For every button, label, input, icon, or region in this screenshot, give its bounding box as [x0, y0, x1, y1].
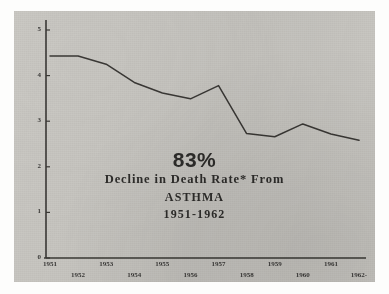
- x-axis-label: 1954: [127, 271, 141, 279]
- x-axis-label: 1955: [155, 260, 169, 268]
- chart-card: 012345 195119521953195419551956195719581…: [14, 11, 375, 282]
- x-axis-label: 1962-: [351, 271, 367, 279]
- x-axis-label: 1953: [99, 260, 113, 268]
- y-axis-label: 0: [29, 253, 41, 261]
- caption-line-3: 1951-1962: [14, 206, 375, 223]
- x-axis-label: 1960: [296, 271, 310, 279]
- data-series-line: [50, 56, 359, 140]
- caption-percent: 83%: [14, 149, 375, 171]
- x-axis-label: 1952: [71, 271, 85, 279]
- caption-line-2: ASTHMA: [14, 189, 375, 206]
- x-axis-label: 1957: [212, 260, 226, 268]
- chart-caption: 83% Decline in Death Rate* From ASTHMA 1…: [14, 149, 375, 223]
- plot-area: 012345 195119521953195419551956195719581…: [14, 11, 375, 282]
- caption-line-1: Decline in Death Rate* From: [14, 171, 375, 189]
- x-axis-label: 1958: [240, 271, 254, 279]
- x-axis-label: 1956: [183, 271, 197, 279]
- y-axis-label: 3: [29, 116, 41, 124]
- x-axis-label: 1959: [268, 260, 282, 268]
- chart-image: 012345 195119521953195419551956195719581…: [0, 0, 389, 294]
- x-axis-label: 1951: [43, 260, 57, 268]
- x-axis-label: 1961: [324, 260, 338, 268]
- line-chart-svg: [14, 11, 375, 282]
- y-axis-label: 5: [29, 25, 41, 33]
- y-axis-label: 4: [29, 71, 41, 79]
